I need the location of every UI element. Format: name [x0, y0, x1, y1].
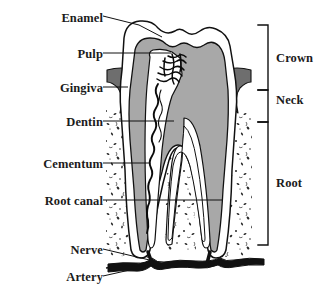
label-gingiva: Gingiva	[0, 81, 103, 96]
tooth-anatomy-diagram: Enamel Pulp Gingiva Dentin Cementum Root…	[0, 0, 323, 297]
root-bracket	[258, 122, 268, 245]
label-cementum: Cementum	[0, 157, 103, 172]
label-neck: Neck	[276, 93, 303, 108]
label-pulp: Pulp	[0, 47, 103, 62]
region-brackets	[258, 25, 268, 245]
neck-bracket	[258, 90, 268, 122]
label-crown: Crown	[276, 51, 313, 66]
crown-bracket	[258, 25, 268, 90]
label-artery: Artery	[0, 270, 103, 285]
label-root-canal: Root canal	[0, 194, 103, 209]
label-nerve: Nerve	[0, 243, 103, 258]
label-root: Root	[276, 176, 302, 191]
label-dentin: Dentin	[0, 115, 103, 130]
label-enamel: Enamel	[0, 11, 103, 26]
